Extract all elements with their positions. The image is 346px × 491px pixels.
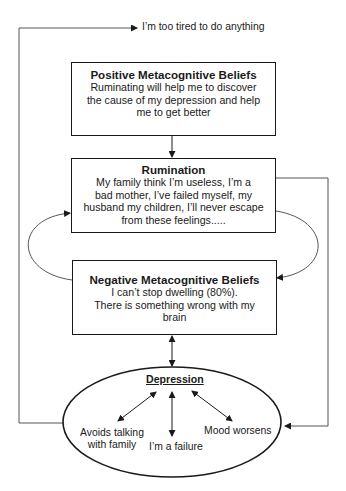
positive-beliefs-box: Positive Metacognitive Beliefs Ruminatin… xyxy=(71,62,276,136)
rumination-line: from these feelings..... xyxy=(72,214,275,227)
rumination-box: Rumination My family think I’m useless, … xyxy=(71,158,276,233)
arrow-depression-mood xyxy=(192,391,232,421)
consequence-mood: Mood worsens xyxy=(204,425,272,437)
consequence-failure: I’m a failure xyxy=(149,441,203,453)
consequence-line: Mood worsens xyxy=(204,425,272,437)
positive-beliefs-title: Positive Metacognitive Beliefs xyxy=(72,68,275,81)
positive-beliefs-line: Ruminating will help me to discover xyxy=(72,81,275,94)
negative-beliefs-box: Negative Metacognitive Beliefs I can’t s… xyxy=(72,260,277,335)
consequence-line: I’m a failure xyxy=(149,441,203,453)
negative-beliefs-title: Negative Metacognitive Beliefs xyxy=(73,273,276,286)
curve-negative-to-rumination xyxy=(28,213,72,280)
rumination-line: husband my children, I’ll never escape xyxy=(72,201,275,214)
curve-rumination-to-negative xyxy=(276,211,318,278)
depression-title: Depression xyxy=(146,373,204,385)
positive-beliefs-line: the cause of my depression and help xyxy=(72,94,275,107)
consequence-line: with family xyxy=(80,439,144,451)
negative-beliefs-line: There is something wrong with my xyxy=(73,299,276,312)
positive-beliefs-line: me to get better xyxy=(72,106,275,119)
negative-beliefs-line: I can’t stop dwelling (80%). xyxy=(73,286,276,299)
top-feedback-label: I’m too tired to do anything xyxy=(142,21,264,33)
consequence-avoids: Avoids talking with family xyxy=(80,427,144,452)
rumination-line: bad mother, I’ve failed myself, my xyxy=(72,189,275,202)
arrow-depression-avoids xyxy=(118,392,156,421)
rumination-title: Rumination xyxy=(72,163,275,176)
consequence-line: Avoids talking xyxy=(80,427,144,439)
negative-beliefs-line: brain xyxy=(73,311,276,324)
right-feedback-line xyxy=(276,178,328,426)
rumination-line: My family think I’m useless, I’m a xyxy=(72,176,275,189)
